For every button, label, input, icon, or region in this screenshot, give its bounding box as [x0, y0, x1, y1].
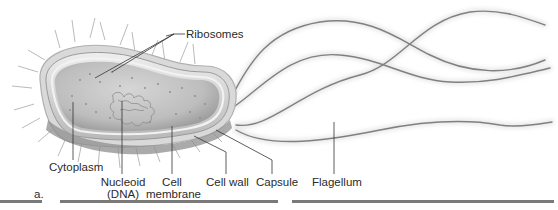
label-nucleoid-line1: Nucleoid	[100, 176, 146, 188]
bottom-edge-strip	[0, 200, 558, 204]
label-cell-membrane-line1: Cell	[146, 176, 198, 188]
strip-segment	[292, 200, 554, 203]
panel-label: a.	[34, 188, 44, 200]
strip-segment	[0, 200, 42, 203]
bacterial-cell-diagram: Ribosomes Cytoplasm Nucleoid (DNA) Cell …	[0, 0, 558, 210]
label-cell-membrane-line2: membrane	[146, 188, 198, 200]
label-nucleoid-line2: (DNA)	[100, 188, 146, 200]
label-cell-wall: Cell wall	[206, 176, 249, 188]
label-flagellum: Flagellum	[312, 176, 362, 188]
flagella	[230, 11, 552, 141]
label-capsule: Capsule	[256, 176, 298, 188]
label-nucleoid: Nucleoid (DNA)	[100, 176, 146, 200]
label-cell-membrane: Cell membrane	[146, 176, 198, 200]
label-ribosomes: Ribosomes	[186, 28, 244, 40]
label-cytoplasm: Cytoplasm	[49, 161, 103, 173]
strip-segment	[60, 200, 278, 203]
